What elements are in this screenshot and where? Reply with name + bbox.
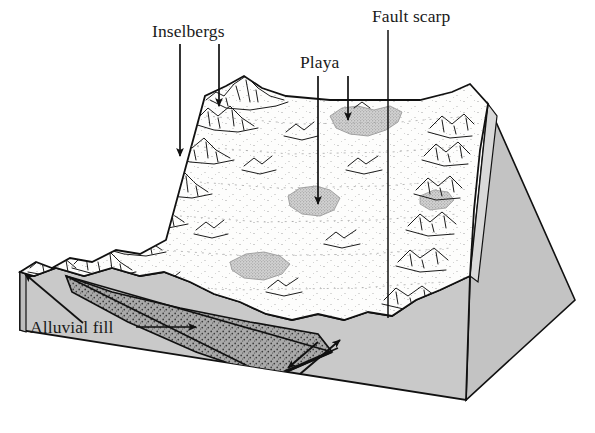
left-corner-face <box>20 272 26 332</box>
label-fault-scarp: Fault scarp <box>372 6 451 26</box>
label-inselbergs: Inselbergs <box>152 21 225 41</box>
block-diagram-figure: Inselbergs Playa Fault scarp Alluvial fi… <box>0 0 595 433</box>
label-playa: Playa <box>300 52 340 72</box>
label-alluvial-fill: Alluvial fill <box>30 317 113 337</box>
